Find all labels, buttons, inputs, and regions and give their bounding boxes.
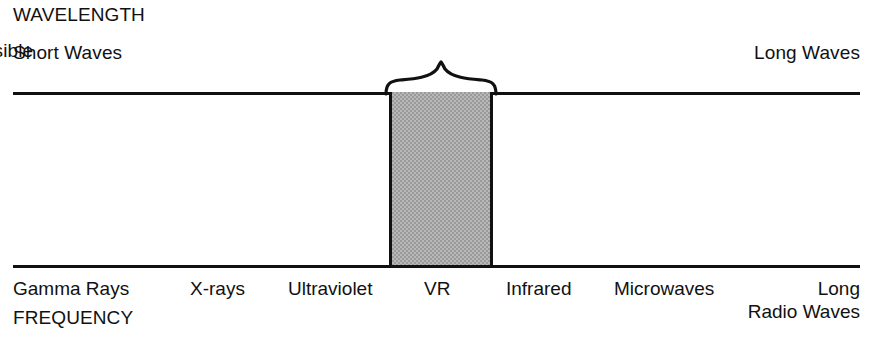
band-label-long-radio-waves: Long Radio Waves	[748, 277, 860, 323]
visible-band-label-text: Visible	[0, 40, 33, 62]
wavelength-axis-title: WAVELENGTH	[13, 4, 145, 26]
curly-brace-icon	[382, 60, 500, 96]
band-label-microwaves: Microwaves	[614, 277, 714, 300]
band-label-x-rays: X-rays	[190, 277, 245, 300]
frequency-axis-title: FREQUENCY	[13, 307, 133, 329]
band-label-text: Ultraviolet	[288, 278, 372, 299]
frequency-axis-line	[13, 265, 860, 268]
visible-band-label: Visible	[0, 40, 442, 62]
long-waves-label: Long Waves	[754, 42, 860, 64]
band-label-ultraviolet: Ultraviolet	[288, 277, 372, 300]
band-label-text: VR	[424, 278, 450, 299]
band-label-text: X-rays	[190, 278, 245, 299]
band-label-text: Microwaves	[614, 278, 714, 299]
spectrum-diagram: WAVELENGTH Short Waves Long Waves Visibl…	[0, 0, 874, 337]
band-label-text: Gamma Rays	[13, 278, 129, 299]
visible-spectrum-band	[389, 92, 493, 268]
band-label-vr: VR	[424, 277, 450, 300]
band-label-text-line2: Radio Waves	[748, 300, 860, 323]
band-label-text-line1: Long	[748, 277, 860, 300]
band-label-infrared: Infrared	[506, 277, 571, 300]
band-label-text: Infrared	[506, 278, 571, 299]
band-label-gamma-rays: Gamma Rays	[13, 277, 129, 300]
